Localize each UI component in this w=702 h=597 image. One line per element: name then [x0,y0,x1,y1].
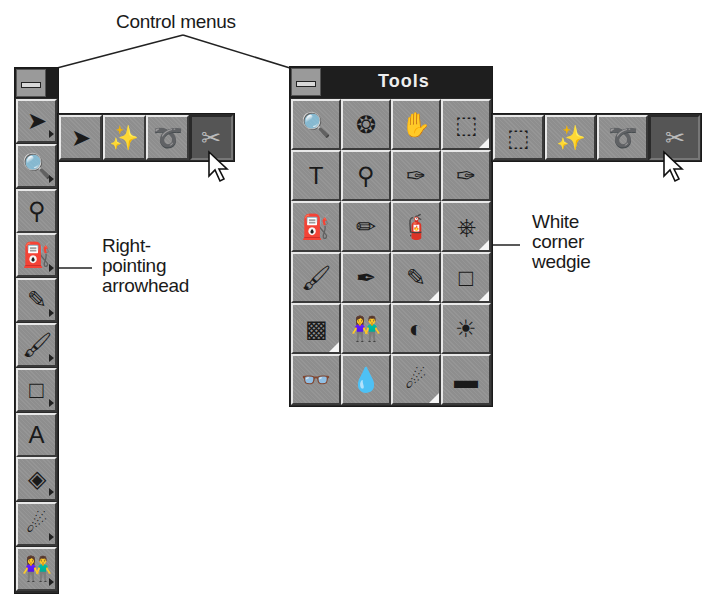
tools-palette-titlebar: Tools [290,67,492,98]
tool-button-airbrush[interactable]: 🧯 [391,201,441,252]
tool-button-selection-arrow[interactable]: ➤ [16,99,57,143]
paintbrush-icon: 🖌 [301,266,331,290]
tool-button-eyedropper[interactable]: ⚲ [341,150,391,201]
tool-button-pen[interactable]: ✎ [16,278,57,322]
tool-button-rectangle[interactable]: □ [441,252,491,303]
right-arrowhead-icon [49,533,54,541]
rubber-stamp-icon: ⎈ [457,215,476,239]
tool-button-airbrush[interactable]: ⛽ [16,233,57,277]
right-arrowhead-icon [49,578,54,586]
eraser-icon: ✑ [406,164,426,188]
tool-button-eraser[interactable]: ✑ [391,150,441,201]
tool-button-hand[interactable]: ✋ [391,99,441,150]
pattern-fill-icon: ▩ [305,317,328,341]
rectangle-icon: □ [29,378,44,402]
tools-palette: Tools 🔍❂✋⬚T⚲✑✑⛽✏🧯⎈🖌✒✎□▩👫◐☀👓💧☄▬ [289,66,493,407]
corner-wedgie-icon [429,291,439,301]
tool-button-rectangle[interactable]: □ [16,368,57,412]
left-toolbar-titlebar [15,68,58,98]
scissors-icon: ✂ [201,126,221,150]
corner-wedgie-icon [329,342,339,352]
palette-title: Tools [378,71,430,92]
rectangle-marquee-icon: ⬚ [455,113,478,137]
control-menu-button[interactable] [16,69,46,97]
lasso-icon: ➰ [153,126,183,150]
effect-brush-icon: ☄ [26,512,48,536]
tool-button-rectangle-marquee[interactable]: ⬚ [441,99,491,150]
tool-button-rubber-stamp[interactable]: ⎈ [441,201,491,252]
callout-line: corner [532,232,590,252]
right-arrowhead-icon [49,354,54,362]
tool-button-line-pen[interactable]: ✎ [391,252,441,303]
tool-button-brightness[interactable]: ☀ [441,303,491,354]
tool-button-lasso[interactable]: ➰ [597,115,648,160]
compass-wheel-icon: ❂ [356,113,376,137]
paint-bucket-icon: ◈ [28,467,46,491]
tool-button-paint-bucket[interactable]: ◈ [16,457,57,501]
clone-people-icon: 👫 [351,317,381,341]
tool-button-text[interactable]: T [291,150,341,201]
tool-button-pattern-fill[interactable]: ▩ [291,303,341,354]
tool-button-magic-wand[interactable]: ✨ [545,115,596,160]
right-arrowhead-icon [49,399,54,407]
tool-button-chalk-eraser[interactable]: ▬ [441,354,491,405]
zoom-checker-icon: 🔍 [301,113,331,137]
binoculars-icon: 👓 [301,368,331,392]
control-menu-button[interactable] [291,68,321,96]
brightness-icon: ☀ [455,317,477,341]
callout-arrowhead: Right- pointing arrowhead [102,236,189,296]
tool-button-compass-wheel[interactable]: ❂ [341,99,391,150]
right-arrowhead-icon [49,175,54,183]
lasso-icon: ➰ [608,126,638,150]
drop-icon: 💧 [351,368,381,392]
line-pen-icon: ✎ [406,266,426,290]
right-arrowhead-icon [49,488,54,496]
tool-button-clone-people[interactable]: 👫 [341,303,391,354]
tool-button-effect-brush[interactable]: ☄ [391,354,441,405]
tool-button-zoom[interactable]: 🔍 [16,144,57,188]
clone-people-icon: 👫 [22,557,52,581]
tool-button-rectangle-marquee[interactable]: ⬚ [493,115,544,160]
scissors-icon: ✂ [665,126,685,150]
tool-button-pencil-house[interactable]: ✏ [341,201,391,252]
tool-button-magic-wand[interactable]: ✨ [103,115,146,160]
tool-button-paintbrush[interactable]: 🖌 [16,323,57,367]
corner-wedgie-icon [479,240,489,250]
callout-line: pointing [102,256,189,276]
selection-arrow-icon: ➤ [27,109,47,133]
tool-button-drop[interactable]: 💧 [341,354,391,405]
hand-icon: ✋ [401,113,431,137]
magic-wand-icon: ✨ [556,126,586,150]
tool-button-clone-people[interactable]: 👫 [16,547,57,591]
paintbrush-icon: 🖌 [22,333,52,357]
mouse-cursor-icon [207,150,233,184]
eyedropper-icon: ⚲ [28,199,46,223]
control-menu-icon [21,82,41,88]
tool-button-lasso[interactable]: ➰ [146,115,189,160]
pen-icon: ✎ [27,288,47,312]
arrow-icon: ➤ [71,126,91,150]
text-icon: T [309,164,324,188]
mouse-cursor-icon [662,150,688,184]
tool-button-text[interactable]: A [16,413,57,457]
eyedropper-icon: ⚲ [357,164,375,188]
tool-button-effect-brush[interactable]: ☄ [16,502,57,546]
tool-button-contrast[interactable]: ◐ [391,303,441,354]
tool-button-fountain-pen[interactable]: ✒ [341,252,391,303]
effect-brush-icon: ☄ [405,368,427,392]
tool-button-spray-can[interactable]: ⛽ [291,201,341,252]
tool-button-paintbrush[interactable]: 🖌 [291,252,341,303]
tool-button-arrow[interactable]: ➤ [59,115,102,160]
spray-can-icon: ⛽ [301,215,331,239]
eraser-fill-icon: ✑ [456,164,476,188]
tool-button-zoom-checker[interactable]: 🔍 [291,99,341,150]
right-arrowhead-icon [49,264,54,272]
callout-control-menus: Control menus [116,12,236,32]
tool-button-eyedropper[interactable]: ⚲ [16,189,57,233]
tool-button-binoculars[interactable]: 👓 [291,354,341,405]
callout-line: arrowhead [102,276,189,296]
pencil-house-icon: ✏ [356,215,376,239]
magic-wand-icon: ✨ [109,126,139,150]
rectangle-marquee-icon: ⬚ [507,126,530,150]
tool-button-eraser-fill[interactable]: ✑ [441,150,491,201]
